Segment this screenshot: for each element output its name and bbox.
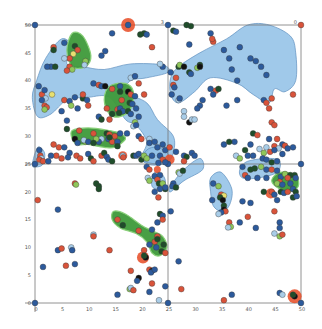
data-point-black: [102, 83, 108, 89]
data-point-black: [220, 197, 226, 203]
data-point-blue: [248, 56, 254, 62]
x-tick-label: 15: [113, 306, 119, 312]
data-point-red: [298, 22, 304, 28]
data-point-red: [56, 144, 62, 150]
data-point-lime: [68, 103, 74, 109]
data-point-red: [255, 132, 261, 138]
data-point-blue: [152, 189, 158, 195]
data-point-blue: [210, 181, 216, 187]
data-point-blue: [298, 161, 304, 167]
data-point-blue: [36, 147, 42, 153]
data-point-blue: [229, 67, 235, 73]
data-point-darkgreen: [242, 147, 248, 153]
data-point-blue: [168, 208, 174, 214]
data-point-blue: [192, 153, 198, 159]
data-point-blue: [45, 158, 51, 164]
data-point-red: [274, 136, 280, 142]
data-point-blue: [253, 58, 259, 64]
data-point-lightblue: [82, 62, 88, 68]
data-point-blue: [234, 97, 240, 103]
data-point-blue: [240, 164, 246, 170]
y-tick-label: 30: [25, 133, 31, 139]
data-point-blue: [136, 114, 142, 120]
data-point-blue: [194, 106, 200, 112]
data-point-blue: [169, 92, 175, 98]
data-point-lime: [144, 156, 150, 162]
data-point-blue: [32, 161, 38, 167]
x-tick-label: 0: [34, 306, 37, 312]
data-point-blue: [124, 131, 130, 137]
data-point-red: [104, 106, 110, 112]
data-point-blue: [274, 158, 280, 164]
data-point-red: [112, 133, 118, 139]
data-point-lightblue: [61, 56, 67, 62]
data-point-red: [59, 156, 65, 162]
x-tick-label: 25: [166, 306, 172, 312]
data-point-blue: [237, 44, 243, 50]
data-point-blue: [162, 283, 168, 289]
data-point-darkgreen: [269, 159, 275, 165]
data-point-red: [63, 263, 69, 269]
data-point-red: [141, 92, 147, 98]
data-point-blue: [149, 153, 155, 159]
data-point-red: [51, 142, 57, 148]
data-point-blue: [208, 30, 214, 36]
data-point-blue: [48, 153, 54, 159]
data-point-blue: [253, 225, 259, 231]
data-point-black: [197, 64, 203, 70]
data-point-blue: [162, 185, 168, 191]
data-point-darkgreen: [107, 134, 113, 140]
blue-cluster-region: [170, 23, 297, 102]
x-tick-label: 50: [299, 306, 305, 312]
data-point-blue: [224, 103, 230, 109]
data-point-darkgreen: [109, 158, 115, 164]
data-point-blue: [288, 181, 294, 187]
data-point-blue: [132, 93, 138, 99]
data-point-darkgreen: [216, 86, 222, 92]
data-point-darkgreen: [51, 47, 57, 53]
data-point-blue: [248, 200, 254, 206]
data-point-lightblue: [181, 114, 187, 120]
data-point-red: [285, 189, 291, 195]
data-point-blue: [210, 92, 216, 98]
data-point-blue: [290, 144, 296, 150]
data-point-lime: [258, 164, 264, 170]
data-point-blue: [102, 48, 108, 54]
data-point-blue: [75, 106, 81, 112]
data-point-blue: [128, 111, 134, 117]
data-point-blue: [272, 192, 278, 198]
data-point-red: [290, 92, 296, 98]
data-point-blue: [240, 198, 246, 204]
x-tick-label: 5: [61, 306, 64, 312]
data-point-blue: [245, 175, 251, 181]
data-point-darkgreen: [141, 253, 147, 259]
data-point-blue: [188, 71, 194, 77]
data-point-red: [149, 281, 155, 287]
data-point-red: [245, 214, 251, 220]
data-point-darkgreen: [188, 23, 194, 29]
data-point-red: [141, 247, 147, 253]
data-point-darkgreen: [155, 236, 161, 242]
data-point-blue: [266, 136, 272, 142]
data-point-blue: [274, 168, 280, 174]
y-tick-label: 0: [28, 300, 31, 306]
data-point-blue: [155, 144, 161, 150]
chart-canvas: 0510152025303540455005101520253035404550…: [0, 0, 322, 329]
data-point-red: [107, 117, 113, 123]
y-tick-label: 50: [25, 22, 31, 28]
data-point-darkgreen: [161, 242, 167, 248]
data-point-blue: [177, 96, 183, 102]
data-point-red: [119, 97, 125, 103]
data-point-darkgreen: [91, 140, 97, 146]
data-point-blue: [64, 118, 70, 124]
data-point-blue: [132, 73, 138, 79]
scatter-chart: 0510152025303540455005101520253035404550…: [0, 0, 322, 329]
data-point-red: [266, 106, 272, 112]
data-point-blue: [277, 220, 283, 226]
data-point-blue: [264, 167, 270, 173]
y-tick-label: 20: [25, 189, 31, 195]
data-point-darkgreen: [252, 166, 258, 172]
data-point-blue: [147, 140, 153, 146]
data-point-red: [120, 154, 126, 160]
data-point-blue: [234, 78, 240, 84]
